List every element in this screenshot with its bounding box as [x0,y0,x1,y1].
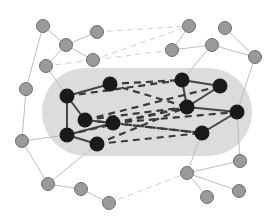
peripheral-node [37,20,50,33]
peripheral-node [166,44,179,57]
core-node [60,89,75,104]
peripheral-node [91,26,104,39]
light-dashed-edge [46,50,172,66]
peripheral-node [103,197,116,210]
light-dashed-edge [97,26,189,32]
peripheral-node [42,178,55,191]
peripheral-node [40,60,53,73]
peripheral-node [206,39,219,52]
core-node [78,113,93,128]
peripheral-node [181,167,194,180]
peripheral-node [87,54,100,67]
peripheral-node [219,22,232,35]
peripheral-node [233,185,246,198]
core-node [213,79,228,94]
peripheral-node [201,191,214,204]
core-node [106,116,121,131]
core-node [90,137,105,152]
peripheral-node [16,135,29,148]
network-diagram [0,0,280,216]
peripheral-node [234,155,247,168]
peripheral-edge [26,26,43,89]
light-dashed-edge [109,173,187,203]
core-node [180,100,195,115]
core-node [60,128,75,143]
peripheral-node [20,83,33,96]
peripheral-edge [22,141,48,184]
core-node [230,105,245,120]
peripheral-edge [187,161,240,173]
peripheral-node [60,39,73,52]
peripheral-node [75,183,88,196]
core-node [103,77,118,92]
peripheral-node [249,51,262,64]
core-node [175,73,190,88]
peripheral-edge [22,89,26,141]
network-graph-svg [0,0,280,216]
peripheral-node [183,20,196,33]
core-node [195,126,210,141]
